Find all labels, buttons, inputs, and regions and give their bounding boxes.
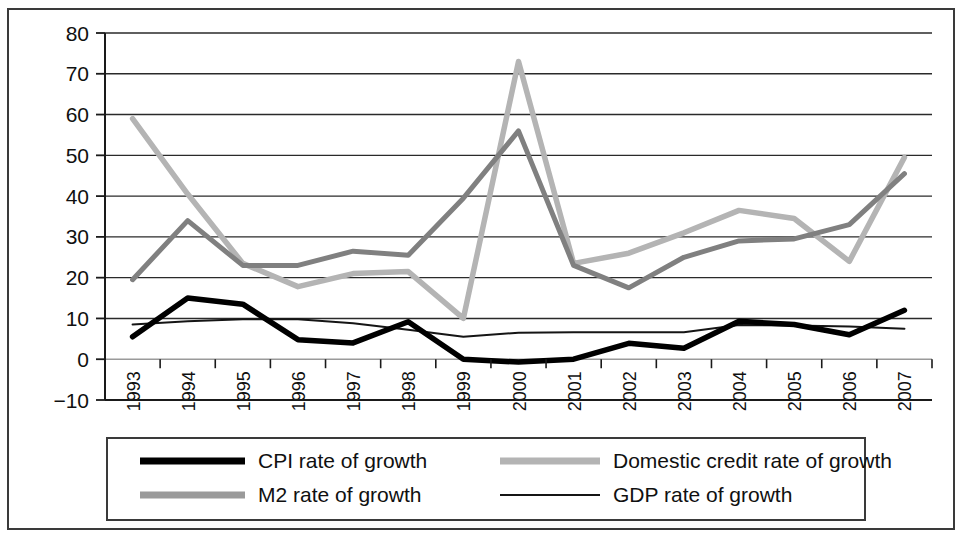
gridlines: −1001020304050607080 — [53, 22, 932, 412]
y-axis-tick-label: 60 — [66, 103, 89, 126]
series-line-cpi-rate-of-growth — [133, 298, 905, 362]
x-axis-tick-label: 1999 — [454, 371, 474, 411]
x-axis-tick-label: 1996 — [289, 371, 309, 411]
legend-label-gdp-rate-of-growth: GDP rate of growth — [613, 483, 792, 506]
legend-label-cpi-rate-of-growth: CPI rate of growth — [258, 449, 427, 472]
y-axis-tick-label: 20 — [66, 266, 89, 289]
x-axis-tick-label: 2000 — [510, 371, 530, 411]
x-axis-tick-label: 2003 — [675, 371, 695, 411]
series-line-m2-rate-of-growth — [133, 131, 905, 288]
chart-page: −100102030405060708019931994199519961997… — [0, 0, 963, 539]
x-axis-tick-label: 1993 — [124, 371, 144, 411]
legend-label-m2-rate-of-growth: M2 rate of growth — [258, 483, 421, 506]
y-axis-tick-label: 70 — [66, 62, 89, 85]
series-group — [133, 62, 905, 363]
x-axis-tick-label: 2004 — [730, 371, 750, 411]
x-axis-tick-label: 2001 — [565, 371, 585, 411]
x-axis: 1993199419951996199719981999200020012002… — [105, 359, 932, 411]
y-axis-tick-label: −10 — [53, 389, 89, 412]
x-axis-tick-label: 2007 — [895, 371, 915, 411]
y-axis-tick-label: 80 — [66, 22, 89, 45]
x-axis-tick-label: 1994 — [179, 371, 199, 411]
x-axis-tick-label: 1997 — [344, 371, 364, 411]
line-chart: −100102030405060708019931994199519961997… — [0, 0, 963, 539]
legend-label-domestic-credit-rate-of-growth: Domestic credit rate of growth — [613, 449, 892, 472]
x-axis-tick-label: 1995 — [234, 371, 254, 411]
series-line-domestic-credit-rate-of-growth — [133, 62, 905, 319]
x-axis-tick-label: 2005 — [785, 371, 805, 411]
y-axis-tick-label: 40 — [66, 185, 89, 208]
x-axis-tick-label: 1998 — [399, 371, 419, 411]
x-axis-tick-label: 2006 — [840, 371, 860, 411]
legend: CPI rate of growthDomestic credit rate o… — [107, 438, 892, 520]
y-axis-tick-label: 0 — [77, 348, 89, 371]
y-axis-tick-label: 30 — [66, 225, 89, 248]
y-axis-tick-label: 10 — [66, 307, 89, 330]
x-axis-tick-label: 2002 — [620, 371, 640, 411]
y-axis-tick-label: 50 — [66, 144, 89, 167]
